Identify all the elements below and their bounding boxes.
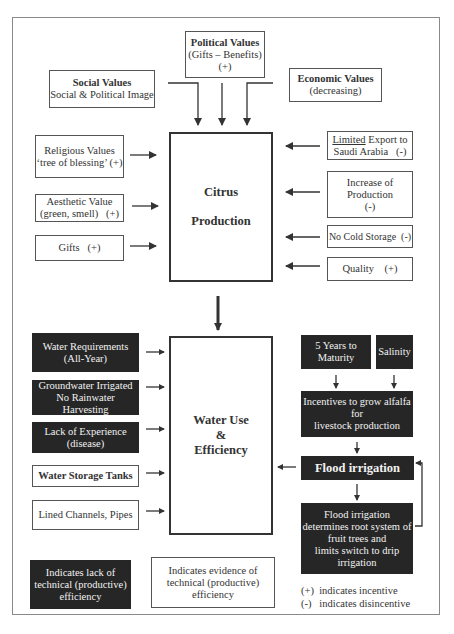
- gifts-label: Gifts (+): [59, 242, 101, 254]
- gifts-box: Gifts (+): [35, 235, 124, 261]
- economic-values-line1: (decreasing): [310, 85, 362, 97]
- legend-dark-box: Indicates lack of technical (productive)…: [30, 560, 131, 609]
- economic-values-title: Economic Values: [297, 73, 373, 85]
- limited-export-line2: Saudi Arabia (-): [334, 146, 407, 158]
- flood-desc-line5: irrigation: [337, 557, 376, 569]
- political-values-title: Political Values: [191, 37, 260, 49]
- increase-production-box: Increase of Production (-): [327, 171, 413, 218]
- religious-values-line2: ‘tree of blessing’ (+): [37, 157, 123, 169]
- water-storage-tanks-box: Water Storage Tanks: [32, 465, 139, 487]
- groundwater-line2: No Rainwater Harvesting: [33, 392, 138, 416]
- citrus-production-line2: Production: [191, 214, 251, 229]
- salinity-label: Salinity: [378, 346, 411, 358]
- citrus-production-box: Citrus Production: [169, 132, 273, 282]
- lack-of-experience-line1: Lack of Experience: [44, 426, 126, 438]
- legend-dark-line1: Indicates lack of: [46, 567, 115, 579]
- aesthetic-value-line1: Aesthetic Value: [47, 196, 113, 208]
- water-use-line1: Water Use: [193, 413, 249, 428]
- social-values-title: Social Values: [73, 77, 132, 89]
- limited-export-box: Limited Export to Saudi Arabia (-): [327, 131, 413, 160]
- flood-description-box: Flood irrigation determines root system …: [301, 503, 413, 574]
- religious-values-box: Religious Values ‘tree of blessing’ (+): [35, 135, 124, 178]
- no-cold-storage-box: No Cold Storage (-): [327, 225, 413, 248]
- flood-desc-line2: determines root system of: [303, 521, 412, 533]
- flood-irrigation-box: Flood irrigation: [301, 456, 414, 480]
- water-use-efficiency-box: Water Use & Efficiency: [169, 336, 273, 535]
- legend-white-line1: Indicates evidence of: [168, 565, 257, 577]
- increase-production-line3: (-): [365, 201, 376, 213]
- citrus-production-line1: Citrus: [204, 185, 238, 200]
- quality-label: Quality (+): [343, 263, 398, 275]
- maturity-box: 5 Years to Maturity: [301, 335, 371, 369]
- groundwater-box: Groundwater Irrigated No Rainwater Harve…: [32, 380, 139, 415]
- increase-production-line2: Production: [347, 189, 393, 201]
- incentives-line3: livestock production: [314, 420, 400, 432]
- limited-underlined: Limited: [332, 134, 365, 145]
- aesthetic-value-line2: (green, smell) (+): [40, 208, 119, 220]
- lined-channels-label: Lined Channels, Pipes: [38, 509, 132, 521]
- flood-irrigation-label: Flood irrigation: [315, 462, 400, 474]
- legend-plus-text: (+) indicates incentive: [301, 585, 398, 597]
- legend-white-line3: efficiency: [192, 589, 234, 601]
- social-values-box: Social Values Social & Political Image: [49, 70, 155, 108]
- lined-channels-box: Lined Channels, Pipes: [32, 500, 139, 530]
- political-values-line2: (+): [219, 61, 232, 73]
- water-use-line3: Efficiency: [194, 443, 247, 458]
- increase-production-line1: Increase of: [347, 177, 393, 189]
- water-use-line2: &: [216, 428, 226, 443]
- economic-values-box: Economic Values (decreasing): [289, 68, 382, 102]
- maturity-line1: 5 Years to: [315, 340, 357, 352]
- political-values-line1: (Gifts – Benefits): [188, 49, 262, 61]
- water-storage-tanks-label: Water Storage Tanks: [38, 470, 132, 482]
- incentives-alfalfa-box: Incentives to grow alfalfa for livestock…: [301, 391, 413, 437]
- legend-minus-text: (-) indicates disincentive: [301, 598, 410, 610]
- social-values-line1: Social & Political Image: [50, 89, 154, 101]
- aesthetic-value-box: Aesthetic Value (green, smell) (+): [35, 194, 124, 222]
- quality-box: Quality (+): [327, 257, 413, 281]
- lack-of-experience-box: Lack of Experience (disease): [32, 422, 139, 453]
- flood-desc-line4: limits switch to drip: [315, 545, 399, 557]
- maturity-line2: Maturity: [318, 352, 355, 364]
- legend-white-box: Indicates evidence of technical (product…: [151, 557, 275, 608]
- political-values-box: Political Values (Gifts – Benefits) (+): [185, 31, 265, 78]
- salinity-box: Salinity: [376, 335, 413, 369]
- limited-export-line1: Limited Export to: [332, 134, 407, 146]
- legend-dark-line3: efficiency: [60, 591, 102, 603]
- incentives-line1: Incentives to grow alfalfa: [303, 396, 411, 408]
- groundwater-line1: Groundwater Irrigated: [38, 380, 132, 392]
- religious-values-line1: Religious Values: [44, 145, 115, 157]
- no-cold-storage-label: No Cold Storage (-): [329, 231, 411, 243]
- flood-desc-line3: fruit trees and: [328, 533, 386, 545]
- lack-of-experience-line2: (disease): [67, 438, 104, 450]
- limited-export-rest: Export to: [366, 134, 408, 145]
- flood-desc-line1: Flood irrigation: [324, 509, 390, 521]
- water-requirements-box: Water Requirements (All-Year): [32, 333, 139, 372]
- incentives-line2: for: [351, 408, 363, 420]
- water-requirements-line1: Water Requirements: [43, 341, 129, 353]
- legend-white-line2: technical (productive): [167, 577, 259, 589]
- water-requirements-line2: (All-Year): [64, 353, 107, 365]
- legend-dark-line2: technical (productive): [34, 579, 126, 591]
